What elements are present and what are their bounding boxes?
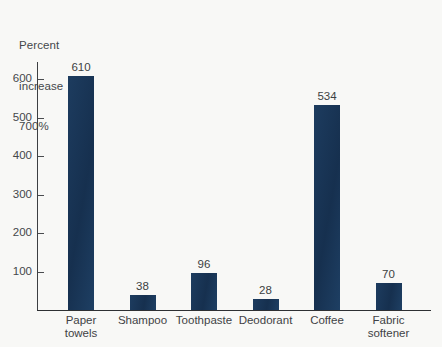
bar (191, 273, 217, 310)
y-tick-label-400: 400 (2, 149, 32, 161)
bar-value-label: 96 (179, 258, 229, 270)
y-tick-200 (38, 233, 44, 234)
y-tick-label-200: 200 (2, 226, 32, 238)
y-tick-label-600: 600 (2, 72, 32, 84)
x-axis-label-line: towels (47, 327, 115, 340)
x-axis-label-line: Paper (47, 314, 115, 327)
x-axis-label-line: Shampoo (109, 314, 177, 327)
y-tick-400 (38, 156, 44, 157)
y-tick-100 (38, 272, 44, 273)
x-axis-label-line: Deodorant (232, 314, 300, 327)
y-axis-title: Percent increase 700% (19, 12, 63, 161)
bar-value-label: 38 (118, 280, 168, 292)
y-axis-title-line-1: Percent (19, 39, 63, 53)
bar (253, 299, 279, 310)
y-tick-label-300: 300 (2, 188, 32, 200)
x-axis-label-line: Coffee (293, 314, 361, 327)
bar (130, 295, 156, 310)
x-axis-label: Shampoo (109, 314, 177, 327)
x-axis-label: Deodorant (232, 314, 300, 327)
x-axis-label: Toothpaste (170, 314, 238, 327)
bar-value-label: 534 (302, 90, 352, 102)
bar-value-label: 70 (364, 268, 414, 280)
x-axis-label-line: Toothpaste (170, 314, 238, 327)
y-tick-300 (38, 195, 44, 196)
x-axis-label: Coffee (293, 314, 361, 327)
y-tick-500 (38, 118, 44, 119)
y-tick-label-500: 500 (2, 111, 32, 123)
bar (376, 283, 402, 310)
bar (68, 76, 94, 311)
x-axis-line (37, 310, 431, 312)
bar (314, 105, 340, 310)
y-tick-label-100: 100 (2, 265, 32, 277)
bar-chart: Percent increase 700% 100200300400500600… (0, 0, 442, 347)
y-tick-600 (38, 79, 44, 80)
x-axis-label: Papertowels (47, 314, 115, 340)
x-axis-label-line: Fabric (355, 314, 423, 327)
bar-value-label: 610 (56, 61, 106, 73)
bar-value-label: 28 (241, 284, 291, 296)
x-axis-label-line: softener (355, 327, 423, 340)
x-axis-label: Fabricsoftener (355, 314, 423, 340)
y-axis-line (37, 62, 38, 311)
